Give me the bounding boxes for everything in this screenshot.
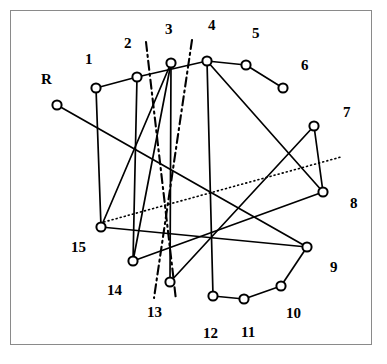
node-label-8: 8 [350, 196, 358, 211]
edge-4-8 [207, 61, 323, 192]
node-label-11: 11 [241, 325, 255, 340]
node-label-14: 14 [107, 283, 122, 298]
node-10[interactable] [276, 281, 285, 290]
node-label-9: 9 [330, 260, 338, 275]
edge-4-5 [207, 61, 246, 65]
node-label-3: 3 [165, 22, 173, 37]
node-R[interactable] [52, 100, 61, 109]
node-label-4: 4 [208, 18, 216, 33]
edge-9-10 [281, 247, 307, 286]
node-label-15: 15 [71, 240, 86, 255]
node-5[interactable] [241, 60, 250, 69]
edge-10-11 [244, 286, 281, 299]
node-11[interactable] [239, 294, 248, 303]
node-label-R: R [41, 72, 52, 87]
dotted-line-layer [104, 157, 341, 222]
node-9[interactable] [302, 242, 311, 251]
node-label-5: 5 [252, 26, 260, 41]
graph-figure: R123456789101112131415 [0, 0, 387, 364]
node-3[interactable] [166, 58, 175, 67]
edge-1-2 [96, 77, 137, 88]
node-label-7: 7 [343, 105, 351, 120]
node-label-12: 12 [203, 326, 218, 341]
cut-line-layer [146, 40, 192, 300]
node-2[interactable] [132, 72, 141, 81]
node-1[interactable] [91, 83, 100, 92]
edge-1-15 [96, 88, 101, 227]
edge-2-14 [133, 77, 137, 261]
node-label-13: 13 [147, 305, 162, 320]
cut-line-right [154, 40, 192, 298]
edge-4-12 [207, 61, 213, 296]
node-label-1: 1 [85, 52, 93, 67]
node-label-10: 10 [286, 306, 301, 321]
node-7[interactable] [309, 121, 318, 130]
node-14[interactable] [128, 256, 137, 265]
node-label-6: 6 [301, 58, 309, 73]
node-13[interactable] [165, 277, 174, 286]
node-4[interactable] [202, 56, 211, 65]
node-8[interactable] [318, 187, 327, 196]
node-label-2: 2 [124, 36, 132, 51]
node-15[interactable] [96, 222, 105, 231]
node-12[interactable] [208, 291, 217, 300]
edge-5-6 [246, 65, 283, 88]
node-6[interactable] [278, 83, 287, 92]
edge-layer [57, 61, 323, 299]
dotted-separator [104, 157, 341, 222]
graph-canvas [0, 0, 387, 364]
